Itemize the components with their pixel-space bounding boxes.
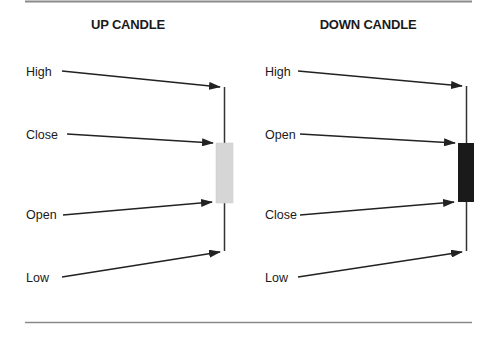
down-candle-title: DOWN CANDLE: [320, 17, 417, 32]
down-label-open: Open: [265, 128, 296, 142]
up-arrow-high: [62, 71, 220, 87]
up-arrow-low: [62, 252, 220, 277]
up-label-open: Open: [26, 208, 57, 222]
up-label-high: High: [26, 65, 52, 79]
down-candle-panel: DOWN CANDLE High Open Close Low: [265, 17, 474, 285]
up-candle-panel: UP CANDLE High Close Open Low: [26, 17, 233, 285]
up-arrow-open: [63, 202, 212, 215]
down-label-high: High: [265, 65, 291, 79]
down-arrow-open: [300, 134, 455, 143]
down-arrow-low: [298, 252, 462, 277]
up-label-low: Low: [26, 271, 50, 285]
down-label-low: Low: [265, 271, 289, 285]
down-label-close: Close: [265, 208, 297, 222]
down-arrow-close: [300, 202, 454, 215]
up-arrow-close: [67, 134, 213, 143]
candlestick-diagram: UP CANDLE High Close Open Low DOWN CANDL…: [0, 0, 500, 346]
up-label-close: Close: [26, 128, 58, 142]
down-arrow-high: [298, 71, 462, 86]
up-candle-body: [216, 143, 233, 203]
down-candle-body: [458, 143, 474, 202]
up-candle-title: UP CANDLE: [91, 17, 165, 32]
